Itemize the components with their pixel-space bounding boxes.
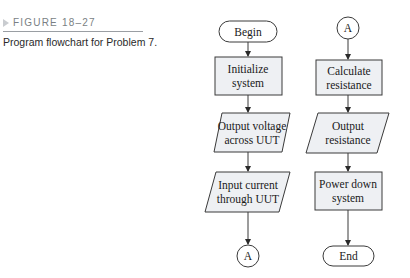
svg-text:Initialize: Initialize bbox=[228, 63, 269, 75]
svg-text:A: A bbox=[344, 22, 353, 34]
svg-text:through UUT: through UUT bbox=[217, 193, 279, 206]
svg-text:resistance: resistance bbox=[326, 79, 371, 91]
svg-text:across UUT: across UUT bbox=[224, 134, 279, 146]
calculate-resistance-process: Calculate resistance bbox=[316, 60, 382, 95]
power-down-system-process: Power down system bbox=[315, 172, 382, 210]
svg-text:Begin: Begin bbox=[234, 26, 262, 39]
svg-text:system: system bbox=[332, 192, 364, 205]
begin-terminal: Begin bbox=[219, 21, 277, 42]
svg-text:End: End bbox=[339, 250, 358, 262]
initialize-system-process: Initialize system bbox=[215, 57, 282, 95]
output-resistance-io: Output resistance bbox=[306, 113, 389, 153]
input-current-io: Input current through UUT bbox=[205, 172, 290, 212]
connector-a-out: A bbox=[237, 245, 259, 267]
output-voltage-io: Output voltage across UUT bbox=[214, 113, 290, 152]
svg-text:Input current: Input current bbox=[218, 179, 279, 192]
svg-text:A: A bbox=[244, 250, 253, 262]
flowchart: Begin Initialize system Output voltage a… bbox=[0, 0, 410, 278]
svg-text:Output: Output bbox=[332, 120, 365, 133]
svg-text:Output voltage: Output voltage bbox=[218, 120, 287, 133]
svg-text:Power down: Power down bbox=[319, 178, 377, 190]
svg-text:system: system bbox=[232, 77, 264, 90]
svg-text:resistance: resistance bbox=[325, 134, 370, 146]
end-terminal: End bbox=[323, 246, 374, 266]
connector-a-in: A bbox=[337, 17, 359, 39]
svg-text:Calculate: Calculate bbox=[327, 65, 370, 77]
